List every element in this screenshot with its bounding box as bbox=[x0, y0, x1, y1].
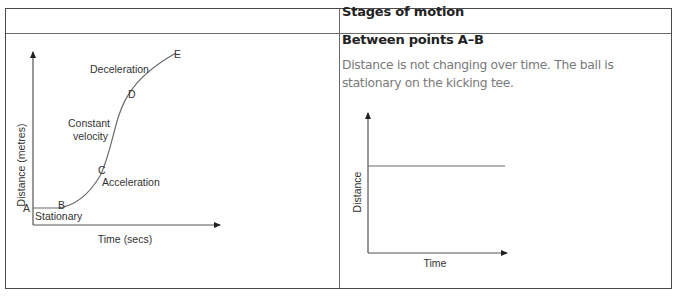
point-d-label: D bbox=[128, 88, 136, 100]
graphs-canvas: Distance (metres) Time (secs) A B C D E … bbox=[0, 0, 675, 297]
point-e-label: E bbox=[174, 48, 181, 60]
distance-time-graph: Distance (metres) Time (secs) A B C D E … bbox=[15, 48, 220, 245]
left-x-axis-label: Time (secs) bbox=[98, 233, 152, 245]
stationary-distance-time-graph: Distance Time bbox=[351, 113, 507, 269]
constant-velocity-label-line1: Constant bbox=[68, 117, 110, 129]
acceleration-label: Acceleration bbox=[102, 176, 160, 188]
right-y-axis-label: Distance bbox=[351, 171, 363, 212]
point-c-label: C bbox=[98, 164, 106, 176]
stationary-label: Stationary bbox=[35, 210, 83, 222]
left-y-axis-label: Distance (metres) bbox=[15, 124, 27, 207]
constant-velocity-label-line2: velocity bbox=[73, 130, 109, 142]
right-x-axis-label: Time bbox=[424, 257, 447, 269]
deceleration-label: Deceleration bbox=[90, 63, 149, 75]
point-a-label: A bbox=[23, 202, 30, 214]
